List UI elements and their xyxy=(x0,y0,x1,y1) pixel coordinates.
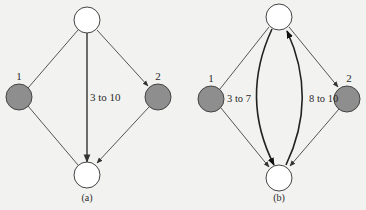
edge-top-right xyxy=(97,30,148,86)
node-bottom xyxy=(266,165,292,191)
node-1-label: 1 xyxy=(208,72,214,84)
node-2 xyxy=(145,84,171,110)
edge-right-bottom xyxy=(97,107,149,163)
edge-right-bottom xyxy=(290,109,339,166)
edge-label-center: 3 to 10 xyxy=(90,91,121,103)
diagram-a: 1 2 3 to 10 (a) xyxy=(6,7,171,204)
edge-top-left xyxy=(28,30,78,88)
edge-label-left-arc: 3 to 7 xyxy=(227,93,251,104)
edge-left-bottom xyxy=(221,108,269,167)
node-2-label: 2 xyxy=(155,70,161,82)
node-2-label: 2 xyxy=(346,72,352,84)
edge-arc-up xyxy=(286,31,302,165)
diagram-b: 1 2 3 to 7 8 to 10 (b) xyxy=(198,4,360,204)
node-bottom xyxy=(74,162,100,188)
edge-label-right-arc: 8 to 10 xyxy=(309,93,338,104)
caption-b: (b) xyxy=(273,192,285,204)
node-top xyxy=(74,7,100,33)
caption-a: (a) xyxy=(81,192,92,204)
node-1 xyxy=(198,86,224,112)
figure-canvas: 1 2 3 to 10 (a) 1 2 3 to 7 8 to 10 (b) xyxy=(0,0,366,210)
node-1 xyxy=(6,84,32,110)
edge-arc-down xyxy=(256,29,274,165)
node-1-label: 1 xyxy=(16,70,22,82)
edge-left-bottom xyxy=(28,106,78,165)
node-top xyxy=(266,4,292,30)
